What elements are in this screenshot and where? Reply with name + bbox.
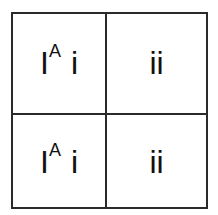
genotype: ii bbox=[149, 45, 163, 82]
punnett-square: IAi ii IAi ii bbox=[11, 12, 208, 209]
genotype: IAi bbox=[40, 45, 78, 82]
cell-top-right: ii bbox=[107, 14, 206, 113]
cell-bottom-left: IAi bbox=[13, 115, 105, 209]
cell-top-left: IAi bbox=[13, 14, 105, 113]
genotype: ii bbox=[149, 144, 163, 181]
cell-bottom-right: ii bbox=[107, 115, 206, 209]
genotype: IAi bbox=[40, 144, 78, 181]
